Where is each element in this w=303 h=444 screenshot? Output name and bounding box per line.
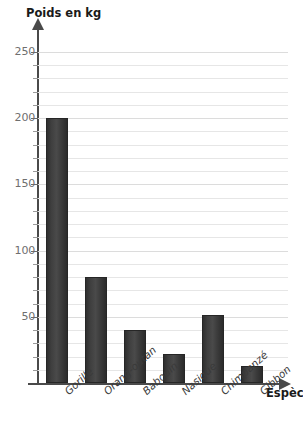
bar-gorille (46, 118, 68, 383)
gridline-minor (38, 145, 288, 146)
y-tick-label: 150 (1, 177, 35, 190)
gridline-minor (38, 264, 288, 265)
gridline-major (38, 251, 288, 252)
y-tick-minor (33, 357, 38, 358)
bar-chart: Poids en kg Espèces 25020015010050 Goril… (0, 0, 303, 444)
gridline-minor (38, 105, 288, 106)
gridline-minor (38, 237, 288, 238)
gridline-minor (38, 198, 288, 199)
plot-area (38, 52, 288, 383)
y-tick-minor (33, 237, 38, 238)
y-tick-minor (33, 78, 38, 79)
y-tick-label: 200 (1, 111, 35, 124)
y-tick-minor (33, 343, 38, 344)
y-tick-minor (33, 65, 38, 66)
gridline-major (38, 52, 288, 53)
gridline-minor (38, 290, 288, 291)
y-tick-label: 50 (1, 310, 35, 323)
y-tick-minor (33, 224, 38, 225)
gridline-minor (38, 92, 288, 93)
y-tick-minor (33, 330, 38, 331)
gridline-minor (38, 304, 288, 305)
y-tick-minor (33, 158, 38, 159)
gridline-major (38, 184, 288, 185)
gridline-minor (38, 171, 288, 172)
gridline-minor (38, 65, 288, 66)
gridline-minor (38, 131, 288, 132)
y-tick-minor (33, 92, 38, 93)
y-tick-label: 100 (1, 244, 35, 257)
gridline-minor (38, 211, 288, 212)
y-tick-minor (33, 370, 38, 371)
y-tick-minor (33, 171, 38, 172)
gridline-minor (38, 343, 288, 344)
y-tick-minor (33, 264, 38, 265)
gridline-minor (38, 277, 288, 278)
y-tick-minor (33, 198, 38, 199)
y-tick-minor (33, 290, 38, 291)
gridline-minor (38, 224, 288, 225)
y-tick-label: 250 (1, 45, 35, 58)
gridline-minor (38, 158, 288, 159)
y-tick-minor (33, 277, 38, 278)
gridline-major (38, 317, 288, 318)
gridline-minor (38, 330, 288, 331)
y-tick-minor (33, 211, 38, 212)
gridline-major (38, 118, 288, 119)
y-tick-minor (33, 131, 38, 132)
y-tick-minor (33, 304, 38, 305)
y-tick-minor (33, 105, 38, 106)
gridline-minor (38, 78, 288, 79)
y-tick-minor (33, 145, 38, 146)
